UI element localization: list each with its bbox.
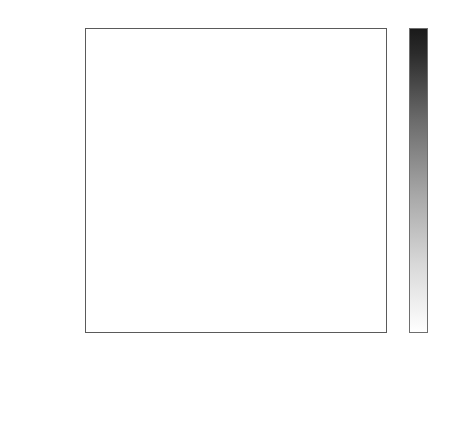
colorbar-gradient [409, 28, 428, 333]
colorbar [409, 28, 428, 333]
confusion-matrix-grid [85, 28, 387, 333]
confusion-matrix-figure [0, 0, 459, 423]
